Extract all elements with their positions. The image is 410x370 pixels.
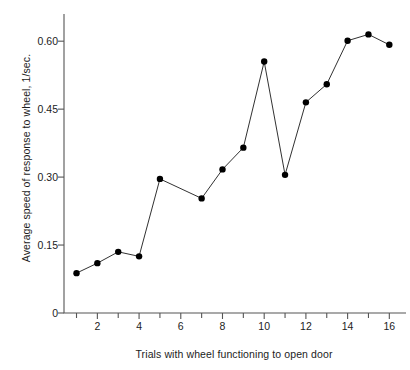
data-point — [324, 81, 330, 87]
data-point — [115, 249, 121, 255]
data-point — [386, 42, 392, 48]
x-axis-title: Trials with wheel functioning to open do… — [64, 348, 404, 360]
data-point — [261, 58, 267, 64]
chart-figure: Average speed of response to wheel, 1/se… — [0, 0, 410, 370]
data-point — [157, 176, 163, 182]
x-tick-label: 4 — [127, 320, 151, 332]
data-point — [136, 253, 142, 259]
plot-area — [0, 0, 410, 370]
axes — [64, 14, 406, 313]
data-point — [94, 260, 100, 266]
data-point — [303, 99, 309, 105]
x-tick-label: 8 — [210, 320, 234, 332]
x-axis-tick-labels: 246810121416 — [0, 320, 410, 338]
x-tick-label: 14 — [336, 320, 360, 332]
axis-ticks — [58, 41, 389, 319]
data-point — [73, 270, 79, 276]
data-point — [240, 144, 246, 150]
data-point — [282, 172, 288, 178]
x-tick-label: 2 — [85, 320, 109, 332]
data-point-markers — [73, 31, 392, 276]
x-tick-label: 16 — [377, 320, 401, 332]
x-tick-label: 10 — [252, 320, 276, 332]
data-point — [344, 38, 350, 44]
data-point — [219, 166, 225, 172]
data-point — [365, 31, 371, 37]
data-line — [77, 34, 390, 273]
x-tick-label: 6 — [169, 320, 193, 332]
data-point — [198, 195, 204, 201]
x-tick-label: 12 — [294, 320, 318, 332]
